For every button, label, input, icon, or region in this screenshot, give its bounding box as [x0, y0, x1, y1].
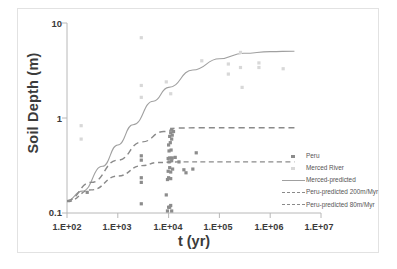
data-point-merced-river: [169, 92, 172, 95]
data-point-merced-river: [282, 67, 285, 70]
data-point-merced-river: [227, 62, 230, 65]
legend-key-merced-marker: [281, 163, 306, 174]
data-point-peru: [171, 156, 174, 159]
legend-key-peru-marker: [281, 151, 306, 162]
data-point-peru: [170, 159, 173, 162]
data-point-peru: [169, 177, 172, 180]
data-point-merced-river: [239, 66, 242, 69]
data-point-merced-river: [239, 51, 242, 54]
data-point-merced-river: [257, 66, 260, 69]
data-point-peru: [140, 202, 143, 205]
legend-item-peru-predicted-80: Peru-predicted 80m/Myr: [281, 199, 393, 211]
data-point-peru: [171, 167, 174, 170]
data-point-peru: [140, 176, 143, 179]
curve-peru-predicted-80m-myr: [67, 162, 294, 202]
data-point-merced-river: [227, 72, 230, 75]
chart-plot-area: [0, 0, 397, 269]
legend-label-peru-predicted-200: Peru-predicted 200m/Myr: [306, 189, 378, 195]
data-point-merced-river: [200, 59, 203, 62]
legend-key-peru-80-line: [281, 199, 306, 210]
data-point-merced-river: [140, 36, 143, 39]
data-point-peru: [169, 131, 172, 134]
data-point-merced-river: [140, 96, 143, 99]
legend-item-merced-predicted: Merced-predicted: [281, 174, 393, 186]
data-point-peru: [184, 171, 187, 174]
legend-label-merced-river: Merced River: [306, 165, 344, 171]
legend-item-peru: Peru: [281, 150, 393, 162]
legend-label-peru-predicted-80: Peru-predicted 80m/Myr: [306, 202, 375, 208]
legend-key-peru-200-line: [281, 187, 306, 198]
curve-merced-predicted: [67, 51, 294, 200]
data-point-peru: [86, 191, 89, 194]
data-point-merced-river: [140, 84, 143, 87]
data-point-peru: [191, 167, 194, 170]
chart-legend: Peru Merced River Merced-predicted Peru-…: [281, 150, 393, 211]
data-point-merced-river: [165, 80, 168, 83]
data-points: [80, 36, 285, 212]
data-point-peru: [169, 170, 172, 173]
legend-label-peru: Peru: [306, 153, 320, 159]
data-point-merced-river: [80, 137, 83, 140]
legend-item-peru-predicted-200: Peru-predicted 200m/Myr: [281, 187, 393, 199]
legend-key-merced-predicted-line: [281, 175, 306, 186]
data-point-peru: [165, 193, 168, 196]
data-point-merced-river: [241, 86, 244, 89]
legend-item-merced-river: Merced River: [281, 162, 393, 174]
data-point-peru: [166, 209, 169, 212]
data-point-peru: [170, 148, 173, 151]
data-point-peru: [140, 159, 143, 162]
curve-peru-predicted-200m-myr: [67, 128, 294, 201]
legend-label-merced-predicted: Merced-predicted: [306, 177, 356, 183]
data-point-peru: [177, 160, 180, 163]
data-point-peru: [168, 166, 171, 169]
data-point-peru: [140, 181, 143, 184]
data-point-merced-river: [257, 61, 260, 64]
data-point-peru: [182, 168, 185, 171]
data-point-peru: [174, 156, 177, 159]
prediction-curves: [67, 51, 294, 201]
data-point-peru: [170, 128, 173, 131]
data-point-peru: [170, 209, 173, 212]
data-point-peru: [169, 204, 172, 207]
data-point-peru: [140, 154, 143, 157]
data-point-peru: [195, 151, 198, 154]
chart-figure: Soil Depth (m) t (yr) 10 1 0.1 1.E+02 1.…: [0, 0, 397, 269]
data-point-merced-river: [80, 124, 83, 127]
data-point-peru: [169, 141, 172, 144]
